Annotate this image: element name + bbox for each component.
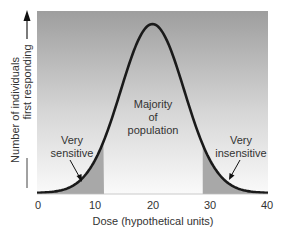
x-tick: 40 [261, 199, 273, 211]
y-axis-label-line1: Number of individuals [9, 57, 21, 163]
x-tick: 10 [89, 199, 101, 211]
annotation-text: insensitive [215, 147, 266, 159]
y-axis-label-line2: first responding [21, 44, 33, 119]
dose-response-chart: 0 10 20 30 40 Dose (hypothetical units) … [0, 0, 285, 232]
x-tick: 20 [147, 199, 159, 211]
annotation-text: Majority [134, 98, 173, 110]
annotation-text: of [148, 111, 158, 123]
annotation-text: sensitive [51, 147, 94, 159]
x-axis-label: Dose (hypothetical units) [92, 215, 213, 227]
x-tick: 30 [204, 199, 216, 211]
y-axis-arrow-icon [24, 10, 31, 21]
y-axis-label: Number of individuals first responding [9, 44, 33, 163]
annotation-text: Very [230, 134, 253, 146]
annotation-text: Very [61, 134, 84, 146]
x-tick-labels: 0 10 20 30 40 [35, 199, 273, 211]
x-tick: 0 [35, 199, 41, 211]
annotation-text: population [128, 124, 179, 136]
